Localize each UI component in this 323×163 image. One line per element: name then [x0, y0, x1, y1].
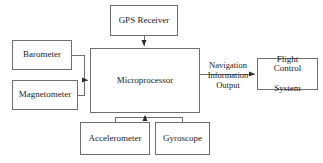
node-flight-control-system-label: Flight Control System — [258, 55, 317, 94]
node-magnetometer[interactable]: Magnetometer — [12, 80, 78, 110]
node-magnetometer-label: Magnetometer — [17, 90, 73, 100]
node-gyroscope[interactable]: Gyroscope — [155, 122, 210, 155]
edge-label-line1: Navigation — [200, 60, 256, 70]
edge-label-line2: Information — [200, 70, 256, 80]
node-flight-control-system[interactable]: Flight Control System — [257, 58, 318, 90]
node-microprocessor-label: Microprocessor — [115, 76, 175, 86]
node-barometer[interactable]: Barometer — [12, 40, 72, 70]
edge-label-navigation-information-output: Navigation Information Output — [200, 60, 256, 90]
node-barometer-label: Barometer — [21, 50, 63, 60]
edge-barometer-to-bus — [72, 55, 84, 80]
node-microprocessor[interactable]: Microprocessor — [90, 48, 200, 113]
edge-label-line3: Output — [200, 80, 256, 90]
node-accelerometer-label: Accelerometer — [87, 134, 144, 144]
edge-magnetometer-to-bus — [78, 80, 84, 95]
node-flight-control-system-label-line1: Flight Control — [260, 55, 315, 74]
node-accelerometer[interactable]: Accelerometer — [80, 122, 150, 155]
node-gyroscope-label: Gyroscope — [161, 134, 204, 144]
node-gps-receiver-label: GPS Receiver — [117, 16, 172, 26]
node-gps-receiver[interactable]: GPS Receiver — [110, 5, 178, 36]
node-flight-control-system-label-line2: System — [260, 84, 315, 94]
diagram-canvas: GPS Receiver Barometer Magnetometer Micr… — [0, 0, 323, 163]
